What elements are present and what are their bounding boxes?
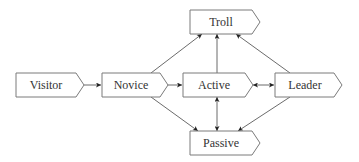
node-visitor[interactable]: Visitor <box>16 73 84 97</box>
node-leader[interactable]: Leader <box>275 73 342 97</box>
node-leader-label: Leader <box>288 78 321 92</box>
node-active-label: Active <box>198 78 230 92</box>
node-active[interactable]: Active <box>183 73 253 97</box>
state-diagram: Visitor Novice Active Leader Troll Passi… <box>0 0 359 162</box>
edge-leader-troll <box>236 34 290 73</box>
edge-leader-passive <box>238 97 290 131</box>
node-passive-label: Passive <box>203 136 239 150</box>
node-troll[interactable]: Troll <box>190 10 260 34</box>
node-troll-label: Troll <box>209 15 233 29</box>
edge-novice-passive <box>151 97 198 131</box>
node-visitor-label: Visitor <box>30 78 63 92</box>
edge-novice-troll <box>151 34 202 73</box>
node-novice[interactable]: Novice <box>102 73 168 97</box>
node-passive[interactable]: Passive <box>190 131 260 155</box>
node-novice-label: Novice <box>114 78 149 92</box>
